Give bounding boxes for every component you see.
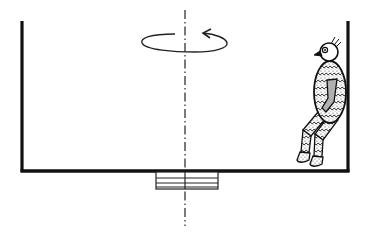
diagram-canvas: [0, 0, 366, 233]
rotating-container-diagram: [0, 0, 366, 233]
base-bearing: [156, 172, 218, 189]
seated-figure: [297, 37, 346, 166]
figure-beak: [314, 51, 322, 56]
